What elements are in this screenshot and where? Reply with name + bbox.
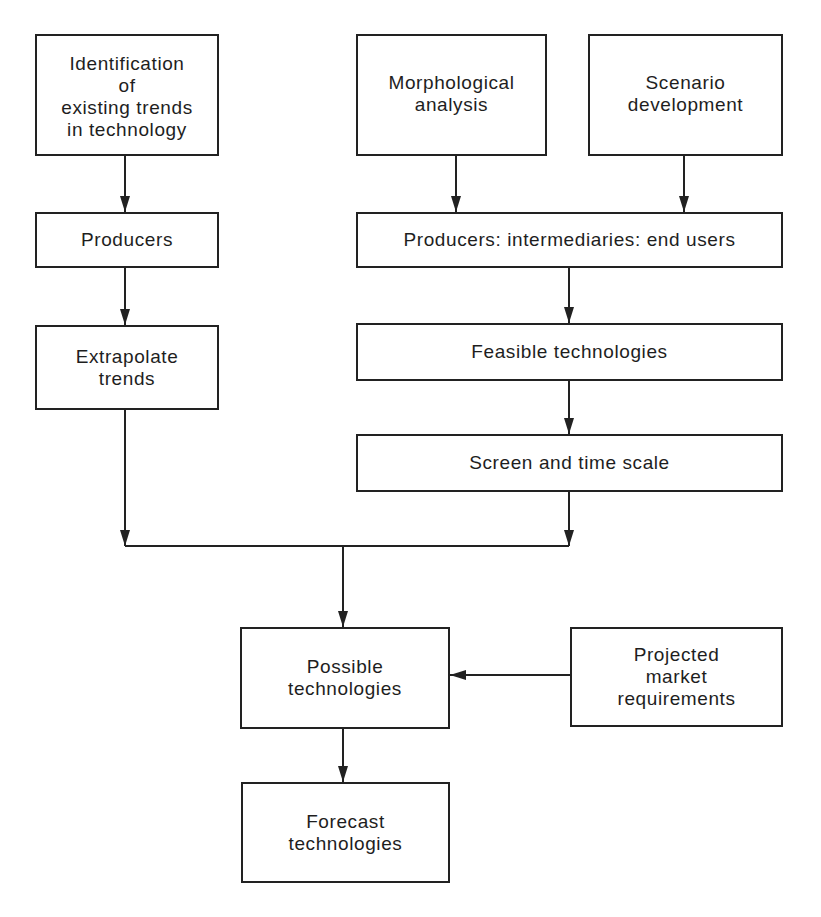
node-text: Feasible technologies	[471, 341, 667, 363]
node-text: Extrapolate	[76, 346, 179, 368]
node-forecast-technologies: Forecast technologies	[241, 782, 450, 883]
node-morphological-analysis: Morphological analysis	[356, 34, 547, 156]
node-text: technologies	[289, 833, 403, 855]
node-text: Identification	[69, 53, 184, 75]
arrowhead-icon	[679, 196, 689, 212]
arrowhead-icon	[450, 670, 466, 680]
node-text: technologies	[288, 678, 402, 700]
node-possible-technologies: Possible technologies	[240, 627, 450, 729]
node-feasible-technologies: Feasible technologies	[356, 323, 783, 381]
node-text: Screen and time scale	[469, 452, 670, 474]
arrowhead-icon	[338, 611, 348, 627]
flowchart-canvas: Identification of existing trends in tec…	[0, 0, 821, 917]
node-text: existing trends	[61, 97, 193, 119]
node-scenario-development: Scenario development	[588, 34, 783, 156]
arrowhead-icon	[564, 307, 574, 323]
node-producers-intermediaries-end-users: Producers: intermediaries: end users	[356, 212, 783, 268]
node-text: Producers	[81, 229, 173, 251]
node-producers: Producers	[35, 212, 219, 268]
node-text: Producers: intermediaries: end users	[403, 229, 735, 251]
arrowhead-icon	[120, 196, 130, 212]
node-text: development	[628, 94, 743, 116]
node-text: requirements	[617, 688, 735, 710]
arrowhead-icon	[120, 309, 130, 325]
node-screen-and-time-scale: Screen and time scale	[356, 434, 783, 492]
node-text: analysis	[415, 94, 488, 116]
arrowhead-icon	[564, 418, 574, 434]
node-text: in technology	[67, 119, 187, 141]
node-text: Morphological	[388, 72, 514, 94]
node-text: market	[646, 666, 708, 688]
arrowhead-icon	[564, 530, 574, 546]
node-text: Scenario	[646, 72, 726, 94]
node-text: Forecast	[306, 811, 385, 833]
node-text: trends	[99, 368, 155, 390]
node-identification: Identification of existing trends in tec…	[35, 34, 219, 156]
node-text: Possible	[307, 656, 384, 678]
arrowhead-icon	[338, 766, 348, 782]
node-text: Projected	[634, 644, 720, 666]
arrowhead-icon	[451, 196, 461, 212]
node-projected-market-requirements: Projected market requirements	[570, 627, 783, 727]
node-text: of	[118, 75, 135, 97]
arrowhead-icon	[120, 530, 130, 546]
node-extrapolate-trends: Extrapolate trends	[35, 325, 219, 410]
